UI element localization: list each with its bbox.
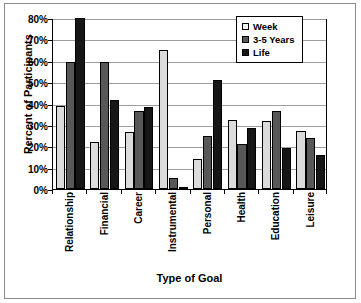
bar-group (122, 20, 156, 189)
y-axis-tick-label: 70% (18, 35, 48, 46)
x-axis-label-slot: Leisure (293, 192, 327, 270)
chart-legend: Week3-5 YearsLife (236, 16, 303, 63)
bar (296, 131, 305, 189)
x-axis-label-slot: Instrumental (155, 192, 189, 270)
y-axis-tick-labels: 0%10%20%30%40%50%60%70%80% (18, 19, 48, 190)
y-axis-tick-label: 0% (18, 185, 48, 196)
legend-swatch-icon (242, 49, 249, 56)
x-axis-label-slot: Financial (87, 192, 121, 270)
bar (134, 111, 143, 189)
x-axis-tick-label: Education (270, 192, 281, 240)
legend-label: Life (253, 47, 270, 58)
bar (213, 80, 222, 189)
x-axis-tick-label: Relationship (64, 192, 75, 252)
bar (306, 138, 315, 189)
bar (316, 155, 325, 189)
x-axis-label-slot: Health (224, 192, 258, 270)
legend-item: 3-5 Years (242, 33, 295, 46)
bar (75, 18, 84, 189)
bar (169, 178, 178, 189)
bar (90, 142, 99, 189)
bar (125, 132, 134, 189)
bar (66, 62, 75, 189)
x-axis-tick-label: Instrumental (167, 192, 178, 252)
x-axis-tick-label: Health (236, 192, 247, 223)
legend-label: 3-5 Years (253, 34, 295, 45)
bar (193, 159, 202, 189)
bar (272, 111, 281, 189)
bar (144, 107, 153, 189)
y-axis-tick-label: 40% (18, 99, 48, 110)
x-axis-tick-label: Career (132, 192, 143, 224)
x-axis-tick-labels: RelationshipFinancialCareerInstrumentalP… (52, 192, 327, 270)
y-axis-tick-label: 60% (18, 56, 48, 67)
bar (110, 100, 119, 189)
bar (237, 144, 246, 189)
bar (262, 121, 271, 189)
y-axis-tick-label: 10% (18, 163, 48, 174)
bar (282, 148, 291, 189)
bar (100, 62, 109, 189)
bar (159, 50, 168, 189)
bar (56, 106, 65, 189)
legend-label: Week (253, 21, 278, 32)
x-axis-label-slot: Education (258, 192, 292, 270)
bar-group (87, 20, 121, 189)
x-axis-tick-label: Personal (201, 192, 212, 234)
bar-group (191, 20, 225, 189)
x-axis-title: Type of Goal (52, 272, 327, 284)
y-axis-tick-label: 20% (18, 142, 48, 153)
y-axis-tick-label: 30% (18, 120, 48, 131)
legend-swatch-icon (242, 36, 249, 43)
x-axis-tick-label: Leisure (304, 192, 315, 228)
y-axis-tick-label: 80% (18, 14, 48, 25)
y-axis-tick-label: 50% (18, 78, 48, 89)
legend-item: Week (242, 20, 295, 33)
bar (228, 120, 237, 189)
x-axis-label-slot: Personal (190, 192, 224, 270)
bar (203, 136, 212, 189)
x-axis-tick-label: Financial (98, 192, 109, 235)
x-axis-label-slot: Career (121, 192, 155, 270)
x-axis-label-slot: Relationship (52, 192, 86, 270)
legend-item: Life (242, 46, 295, 59)
bar (179, 187, 188, 189)
bar (247, 128, 256, 189)
bar-group (156, 20, 190, 189)
legend-swatch-icon (242, 23, 249, 30)
chart-figure: Percent of Participants 0%10%20%30%40%50… (0, 0, 361, 303)
bar-group (53, 20, 87, 189)
